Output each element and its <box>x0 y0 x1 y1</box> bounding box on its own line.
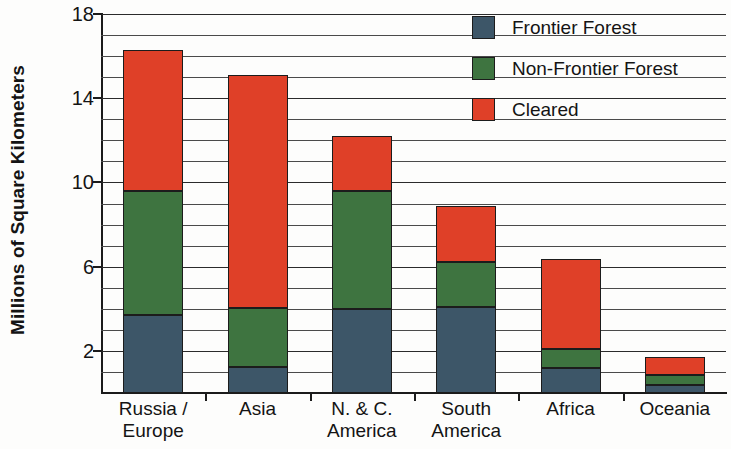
y-tick-mark <box>93 350 102 352</box>
y-axis-title: Millions of Square Kilometers <box>0 0 36 400</box>
bar-segment-non-frontier-forest[interactable] <box>436 262 496 306</box>
y-tick-mark <box>93 13 102 15</box>
legend-swatch-non-frontier-forest <box>472 57 495 80</box>
x-axis-label: Asia <box>205 398 309 420</box>
x-axis-label-line: N. & C. <box>310 398 414 420</box>
bar-segment-cleared[interactable] <box>228 75 288 308</box>
y-tick-label: 10 <box>42 172 94 192</box>
x-axis-label-line: Oceania <box>623 398 727 420</box>
x-axis-label: SouthAmerica <box>414 398 518 443</box>
y-tick-label: 14 <box>42 88 94 108</box>
bar-segment-cleared[interactable] <box>645 357 705 375</box>
x-axis-label: Africa <box>518 398 622 420</box>
y-tick-mark <box>93 181 102 183</box>
bar-segment-non-frontier-forest[interactable] <box>645 375 705 384</box>
y-axis-title-text: Millions of Square Kilometers <box>7 65 29 335</box>
bar-segment-frontier-forest[interactable] <box>332 309 392 393</box>
gridline <box>101 351 726 352</box>
bar-segment-frontier-forest[interactable] <box>645 385 705 393</box>
x-axis-label-line: Asia <box>205 398 309 420</box>
bar-segment-frontier-forest[interactable] <box>541 368 601 393</box>
bar-segment-frontier-forest[interactable] <box>123 315 183 393</box>
x-axis-label-line: South <box>414 398 518 420</box>
bar-segment-non-frontier-forest[interactable] <box>123 191 183 315</box>
y-axis-tick-labels: 26101418 <box>36 0 94 449</box>
gridline <box>101 204 726 205</box>
legend-item[interactable]: Non-Frontier Forest <box>472 49 678 88</box>
x-axis-label-line: Russia / <box>101 398 205 420</box>
legend-label: Cleared <box>512 99 579 121</box>
x-axis-label: Russia /Europe <box>101 398 205 443</box>
y-tick-label: 2 <box>42 341 94 361</box>
bar-segment-cleared[interactable] <box>436 206 496 263</box>
bar-segment-non-frontier-forest[interactable] <box>541 349 601 368</box>
gridline <box>101 267 726 268</box>
gridline <box>101 140 726 141</box>
bar-segment-frontier-forest[interactable] <box>436 307 496 393</box>
x-axis-label-line: Europe <box>101 420 205 442</box>
bar-segment-cleared[interactable] <box>541 259 601 348</box>
legend-label: Non-Frontier Forest <box>512 58 678 80</box>
x-axis-label-line: America <box>414 420 518 442</box>
legend-swatch-frontier-forest <box>472 16 495 39</box>
bar-segment-non-frontier-forest[interactable] <box>228 308 288 367</box>
stacked-bar-chart: Millions of Square Kilometers 26101418 R… <box>0 0 731 449</box>
x-axis-label-line: Africa <box>518 398 622 420</box>
y-tick-mark <box>93 266 102 268</box>
legend-label: Frontier Forest <box>512 17 637 39</box>
gridline <box>101 182 726 183</box>
bar-group[interactable] <box>123 14 183 393</box>
y-tick-label: 6 <box>42 257 94 277</box>
x-axis-label: N. & C.America <box>310 398 414 443</box>
gridline <box>101 372 726 373</box>
y-tick-label: 18 <box>42 4 94 24</box>
gridline <box>101 246 726 247</box>
gridline <box>101 309 726 310</box>
bar-group[interactable] <box>332 14 392 393</box>
x-axis-label-line: America <box>310 420 414 442</box>
bar-segment-cleared[interactable] <box>123 50 183 191</box>
chart-legend: Frontier ForestNon-Frontier ForestCleare… <box>472 8 678 131</box>
legend-item[interactable]: Cleared <box>472 90 678 129</box>
legend-swatch-cleared <box>472 98 495 121</box>
x-axis-label: Oceania <box>623 398 727 420</box>
gridline <box>101 161 726 162</box>
bar-segment-frontier-forest[interactable] <box>228 367 288 393</box>
gridline <box>101 288 726 289</box>
bar-group[interactable] <box>228 14 288 393</box>
bar-segment-cleared[interactable] <box>332 136 392 191</box>
gridline <box>101 330 726 331</box>
y-tick-mark <box>93 97 102 99</box>
bar-segment-non-frontier-forest[interactable] <box>332 191 392 309</box>
gridline <box>101 225 726 226</box>
legend-item[interactable]: Frontier Forest <box>472 8 678 47</box>
